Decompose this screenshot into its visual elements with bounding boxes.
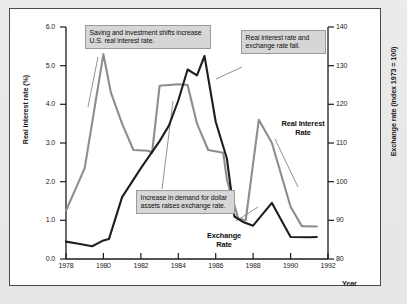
right-tick-label-0: 80 xyxy=(336,255,356,262)
left-tick-label-1: 1.0 xyxy=(35,216,55,223)
left-tick-label-2: 2.0 xyxy=(35,178,55,185)
series-label-exchange-rate: Exchange Rate xyxy=(196,231,252,249)
annotation-dollar-demand: Increase in demand for dollar assets rai… xyxy=(136,190,235,214)
right-axis-title: Exchange rate (index 1973 = 100) xyxy=(389,43,398,161)
right-tick-label-1: 90 xyxy=(336,216,356,223)
left-tick-label-4: 4.0 xyxy=(35,100,55,107)
chart-panel: Exchange Rate Exchange Rate Real Interes… xyxy=(9,8,381,286)
series-label-real-interest-rate: Real Interest Rate xyxy=(274,119,332,137)
left-tick-label-6: 6.0 xyxy=(35,23,55,30)
x-tick-label-1988: 1988 xyxy=(240,262,266,269)
x-tick-label-1986: 1986 xyxy=(203,262,229,269)
x-tick-label-1980: 1980 xyxy=(90,262,116,269)
x-tick-label-1990: 1990 xyxy=(278,262,304,269)
figure-container: Exchange Rate Exchange Rate Real Interes… xyxy=(0,0,407,304)
left-axis-ticks xyxy=(60,27,66,259)
x-tick-label-1992: 1992 xyxy=(315,262,341,269)
leader-fall xyxy=(216,67,242,79)
left-tick-label-3: 3.0 xyxy=(35,139,55,146)
right-tick-label-3: 110 xyxy=(336,139,356,146)
x-tick-label-1982: 1982 xyxy=(128,262,154,269)
annotation-saving-investment: Saving and investment shifts increase U.… xyxy=(85,25,211,49)
leader-demand xyxy=(162,101,173,189)
right-tick-label-5: 130 xyxy=(336,62,356,69)
right-tick-label-6: 140 xyxy=(336,23,356,30)
right-axis-ticks xyxy=(328,27,334,259)
x-tick-label-1984: 1984 xyxy=(165,262,191,269)
right-tick-label-4: 120 xyxy=(336,100,356,107)
annotation-rates-fall: Real interest rate and exchange rate fal… xyxy=(241,30,326,54)
x-axis-ticks xyxy=(66,253,328,259)
left-tick-label-0: 0.0 xyxy=(35,255,55,262)
right-tick-label-2: 100 xyxy=(336,178,356,185)
left-axis-title: Real interest rate (%) xyxy=(21,64,30,156)
x-tick-label-1978: 1978 xyxy=(53,262,79,269)
x-axis-title: Year xyxy=(342,279,357,288)
left-tick-label-5: 5.0 xyxy=(35,62,55,69)
series-real-interest-rate: Real Interest Rate xyxy=(66,56,317,246)
